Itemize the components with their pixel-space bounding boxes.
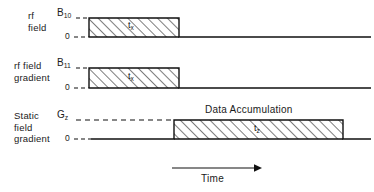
amplitude-label-b11-base: B xyxy=(57,57,64,68)
pulse-duration-label-row3-sub: z xyxy=(257,127,260,134)
pulse-duration-label-row2: tx xyxy=(128,72,134,81)
pulse-duration-label-row1-sub: x xyxy=(131,24,134,31)
amplitude-label-gz-sub: z xyxy=(65,114,68,121)
row-label-rf-field-line2: field xyxy=(28,22,46,34)
row-label-static-field-gradient-line2: field xyxy=(14,122,50,134)
row-label-static-field-gradient: Static field gradient xyxy=(14,110,50,145)
amplitude-label-b10: B10 xyxy=(57,7,71,18)
data-accumulation-annotation: Data Accumulation xyxy=(205,104,293,115)
amplitude-label-b10-base: B xyxy=(57,7,64,18)
pulse-duration-label-row3: tz xyxy=(254,124,260,133)
zero-label-row3: 0 xyxy=(65,134,70,143)
time-axis-label: Time xyxy=(201,173,224,184)
row-label-rf-field-line1: rf xyxy=(28,10,46,22)
pulse-duration-label-row1: tx xyxy=(128,21,134,30)
waveform-canvas xyxy=(0,0,374,192)
pulse-duration-label-row2-sub: x xyxy=(131,75,134,82)
zero-label-row1: 0 xyxy=(65,32,70,41)
row-label-rf-field-gradient: rf field gradient xyxy=(14,60,50,83)
amplitude-label-b10-sub: 10 xyxy=(64,12,72,19)
row2-pulse-block xyxy=(89,68,179,88)
row-label-rf-field-gradient-line2: gradient xyxy=(14,72,50,84)
pulse-sequence-figure: rf field rf field gradient Static field … xyxy=(0,0,374,192)
amplitude-label-gz: Gz xyxy=(57,109,68,120)
row-label-static-field-gradient-line1: Static xyxy=(14,110,50,122)
row-label-rf-field: rf field xyxy=(28,10,46,33)
row-label-rf-field-gradient-line1: rf field xyxy=(14,60,50,72)
row1-pulse-block xyxy=(89,18,179,37)
zero-label-row2: 0 xyxy=(65,83,70,92)
amplitude-label-b11-sub: 11 xyxy=(64,62,71,69)
row-label-static-field-gradient-line3: gradient xyxy=(14,133,50,145)
amplitude-label-b11: B11 xyxy=(57,57,71,68)
amplitude-label-gz-base: G xyxy=(57,109,65,120)
time-axis-arrow-head xyxy=(254,164,262,171)
